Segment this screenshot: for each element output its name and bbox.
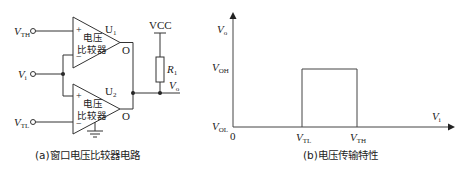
comparator-u2: + − 电压 比较器 U2 O: [73, 84, 130, 137]
origin-label: 0: [230, 130, 236, 142]
u1-label-line2: 比较器: [77, 44, 107, 55]
input-vi: Vi: [18, 55, 73, 96]
vtl-label: VTL: [14, 116, 29, 130]
y-axis-arrow-icon: [230, 12, 237, 19]
input-vth: VTH: [14, 25, 73, 39]
u2-label-line2: 比较器: [77, 110, 107, 121]
voh-label: VOH: [212, 61, 229, 75]
vo-output-label: Vo: [169, 79, 180, 93]
vi-label: Vi: [18, 68, 27, 82]
input-vtl: VTL: [14, 116, 73, 130]
u1-plus-sign: +: [76, 24, 82, 35]
vth-tick-label: VTH: [350, 131, 366, 145]
caption-a: (a)窗口电压比较器电路: [35, 149, 141, 161]
transfer-curve: [302, 69, 357, 127]
y-axis-label: Vo: [217, 23, 228, 37]
u1-name: U1: [105, 23, 117, 37]
r1-label: R1: [166, 63, 178, 77]
u2-plus-sign: +: [76, 90, 82, 101]
u1-output-label: O: [122, 44, 130, 56]
vi-terminal-icon: [31, 72, 36, 77]
vcc-label: VCC: [149, 19, 172, 31]
x-axis-arrow-icon: [448, 124, 455, 131]
u2-output-label: O: [122, 110, 130, 122]
vol-label: VOL: [212, 120, 228, 134]
window-comparator-circuit: VTH Vi VTL + − 电压 比较器 U1 O: [14, 17, 180, 161]
u2-name: U2: [105, 85, 117, 99]
figure: VTH Vi VTL + − 电压 比较器 U1 O: [0, 0, 463, 176]
ground-icon: [87, 122, 103, 137]
vi-split-wire: [63, 55, 73, 96]
vtl-terminal-icon: [31, 120, 36, 125]
transfer-characteristic-plot: Vo VOH VOL 0 VTL VTH Vi (b)电压传输特性: [212, 12, 455, 161]
u1-label-line1: 电压: [83, 32, 103, 43]
x-axis-label: Vi: [432, 110, 441, 124]
vtl-tick-label: VTL: [296, 131, 311, 145]
u2-label-line1: 电压: [83, 98, 103, 109]
resistor-icon: [156, 57, 164, 82]
caption-b: (b)电压传输特性: [303, 149, 378, 161]
vth-terminal-icon: [31, 29, 36, 34]
vth-label: VTH: [14, 25, 30, 39]
vcc-supply: VCC: [149, 19, 172, 57]
